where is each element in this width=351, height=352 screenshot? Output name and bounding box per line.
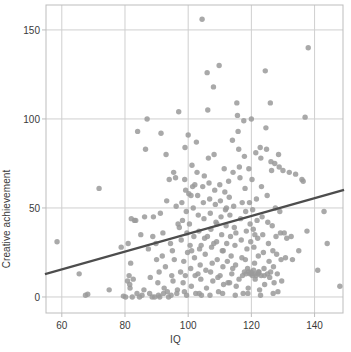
data-point — [187, 221, 192, 226]
data-point — [155, 280, 160, 285]
data-point — [54, 239, 59, 244]
data-point — [283, 255, 288, 260]
data-point — [244, 246, 249, 251]
data-point — [163, 152, 168, 157]
data-point — [247, 200, 252, 205]
data-point — [224, 205, 229, 210]
data-point — [249, 116, 254, 121]
data-point — [125, 241, 130, 246]
data-point — [228, 234, 233, 239]
data-point — [259, 184, 264, 189]
data-point — [234, 100, 239, 105]
data-point — [142, 214, 147, 219]
data-point — [201, 200, 206, 205]
data-point — [206, 155, 211, 160]
data-point — [215, 257, 220, 262]
data-point — [227, 212, 232, 217]
scatter-chart-figure: 6080100120140 050100150 IQ Creative achi… — [0, 0, 351, 352]
data-point — [195, 193, 200, 198]
data-point — [176, 109, 181, 114]
data-point — [197, 262, 202, 267]
data-point — [304, 228, 309, 233]
data-point — [240, 200, 245, 205]
data-point — [271, 264, 276, 269]
data-point — [337, 284, 342, 289]
data-point — [199, 17, 204, 22]
data-point — [256, 253, 261, 258]
data-point — [180, 218, 185, 223]
data-point — [148, 275, 153, 280]
data-point — [221, 248, 226, 253]
data-point — [288, 234, 293, 239]
data-point — [220, 264, 225, 269]
data-point — [227, 195, 232, 200]
data-point — [164, 198, 169, 203]
data-point — [260, 232, 265, 237]
data-point — [245, 291, 250, 296]
y-axis-title: Creative achievement — [0, 0, 14, 352]
data-point — [246, 285, 251, 290]
data-point — [236, 147, 241, 152]
data-point — [232, 225, 237, 230]
data-point — [173, 175, 178, 180]
data-point — [250, 207, 255, 212]
data-point — [158, 130, 163, 135]
x-tick-label: 100 — [180, 320, 197, 331]
data-point — [274, 252, 279, 257]
data-point — [134, 291, 139, 296]
data-point — [189, 248, 194, 253]
data-point — [154, 257, 159, 262]
data-point — [275, 271, 280, 276]
data-point — [127, 285, 132, 290]
data-point — [184, 209, 189, 214]
data-point — [240, 291, 245, 296]
data-point — [258, 155, 263, 160]
data-point — [264, 193, 269, 198]
data-point — [167, 177, 172, 182]
data-point — [150, 234, 155, 239]
data-point — [179, 200, 184, 205]
data-point — [160, 253, 165, 258]
data-point — [130, 294, 135, 299]
data-point — [258, 145, 263, 150]
data-point — [242, 186, 247, 191]
data-point — [315, 268, 320, 273]
x-tick-label: 120 — [243, 320, 260, 331]
data-point — [219, 232, 224, 237]
data-point — [191, 234, 196, 239]
data-point — [252, 232, 257, 237]
data-point — [151, 214, 156, 219]
data-point — [233, 230, 238, 235]
data-point — [202, 173, 207, 178]
data-point — [321, 209, 326, 214]
data-point — [207, 292, 212, 297]
data-point — [175, 221, 180, 226]
data-point — [203, 268, 208, 273]
data-point — [182, 145, 187, 150]
data-point — [269, 168, 274, 173]
data-point — [208, 269, 213, 274]
data-point — [224, 241, 229, 246]
data-point — [156, 269, 161, 274]
data-point — [96, 186, 101, 191]
data-point — [189, 284, 194, 289]
data-point — [280, 168, 285, 173]
data-point — [204, 285, 209, 290]
data-point — [205, 234, 210, 239]
data-point — [131, 276, 136, 281]
data-point — [170, 278, 175, 283]
data-point — [211, 84, 216, 89]
data-point — [248, 239, 253, 244]
data-point — [226, 179, 231, 184]
data-point — [160, 230, 165, 235]
data-point — [173, 203, 178, 208]
data-point — [156, 292, 161, 297]
data-point — [268, 269, 273, 274]
data-point — [247, 221, 252, 226]
data-point — [230, 266, 235, 271]
data-point — [300, 179, 305, 184]
data-point — [222, 166, 227, 171]
gridlines — [46, 5, 343, 313]
data-point — [236, 276, 241, 281]
data-point — [196, 212, 201, 217]
